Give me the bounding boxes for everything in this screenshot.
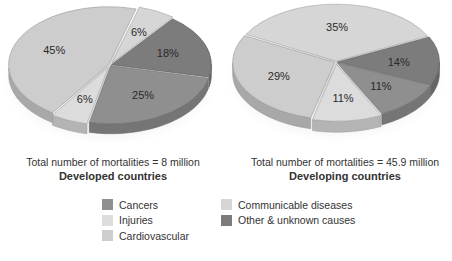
legend-column-2: Communicable diseases Other & unknown ca… <box>221 197 355 228</box>
legend-item-injuries: Injuries <box>102 213 189 229</box>
legend-label: Injuries <box>119 214 153 226</box>
slice-label: 6% <box>77 93 93 105</box>
slice-label: 11% <box>332 92 353 104</box>
cancers-swatch <box>102 199 113 210</box>
developed-total: Total number of mortalities = 8 million <box>0 155 226 169</box>
slice-label: 6% <box>131 26 147 38</box>
developing-caption: Total number of mortalities = 45.9 milli… <box>232 155 452 184</box>
injuries-swatch <box>102 215 113 226</box>
other-swatch <box>221 215 232 226</box>
developed-caption: Total number of mortalities = 8 million … <box>0 155 226 184</box>
slice-label: 11% <box>370 80 391 92</box>
communicable-swatch <box>221 199 232 210</box>
cardiovascular-swatch <box>102 230 113 241</box>
slice-label: 29% <box>268 70 290 82</box>
legend-item-other: Other & unknown causes <box>221 213 355 229</box>
legend-item-cancers: Cancers <box>102 197 189 213</box>
slice-label: 35% <box>326 21 348 33</box>
slice-label: 45% <box>43 44 65 56</box>
legend-label: Other & unknown causes <box>238 214 355 226</box>
developing-total: Total number of mortalities = 45.9 milli… <box>232 155 452 169</box>
slice-label: 25% <box>132 89 154 101</box>
developed-title: Developed countries <box>0 169 226 184</box>
legend-item-cardiovascular: Cardiovascular <box>102 228 189 244</box>
legend-item-communicable: Communicable diseases <box>221 197 355 213</box>
slice-label: 18% <box>157 47 179 59</box>
slice-label: 14% <box>388 56 410 68</box>
legend-label: Cardiovascular <box>119 230 189 242</box>
developing-title: Developing countries <box>232 169 452 184</box>
developing-countries-pie: 35%14%11%11%29% <box>226 4 446 142</box>
legend-column-1: Cancers Injuries Cardiovascular <box>102 197 189 244</box>
legend-label: Cancers <box>119 199 158 211</box>
legend-label: Communicable diseases <box>238 199 352 211</box>
developed-countries-pie: 6%18%25%6%45% <box>2 7 218 145</box>
